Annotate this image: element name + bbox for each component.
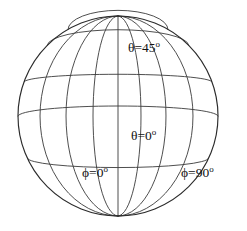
- label-phi-90-text: ϕ=90: [181, 165, 209, 180]
- label-phi-90: ϕ=90o: [181, 166, 214, 180]
- meridian-arc-4: [93, 16, 118, 216]
- degree-sign-icon: o: [209, 164, 214, 174]
- degree-sign-icon: o: [152, 127, 157, 137]
- degree-sign-icon: o: [103, 164, 108, 174]
- label-theta-45-text: θ=45: [128, 40, 156, 55]
- label-theta-0: θ=0o: [131, 129, 156, 143]
- label-phi-0: ϕ=0o: [82, 166, 108, 180]
- label-phi-0-text: ϕ=0: [82, 165, 103, 180]
- degree-sign-icon: o: [156, 39, 161, 49]
- meridian-arc-5: [66, 16, 118, 216]
- meridian-arcs-group: [40, 16, 193, 216]
- label-theta-0-text: θ=0: [131, 128, 152, 143]
- label-theta-45: θ=45o: [128, 41, 160, 55]
- globe-diagram: θ=45o θ=0o ϕ=0o ϕ=90o: [0, 0, 247, 231]
- meridian-arc-6: [40, 16, 118, 216]
- globe-svg-canvas: [0, 0, 247, 231]
